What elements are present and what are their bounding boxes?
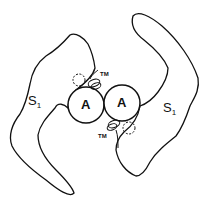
tm-top-label: TM — [100, 71, 109, 77]
a-left-label: A — [81, 98, 90, 111]
dashed-circle-top — [73, 74, 85, 86]
s1-right-label: S1 — [163, 101, 176, 117]
s1-left-label: S1 — [28, 94, 41, 110]
tm-bottom-label: TM — [98, 133, 107, 139]
a-right-label: A — [117, 96, 126, 109]
tm-loops-bottom — [106, 119, 121, 148]
